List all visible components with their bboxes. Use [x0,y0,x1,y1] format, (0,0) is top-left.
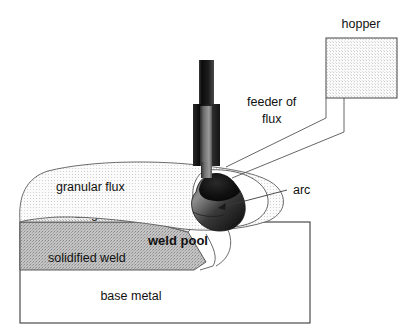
submerged-arc-welding-diagram: base metal solidified weld slag granular… [0,0,413,336]
diagram-canvas: base metal solidified weld slag granular… [0,0,413,336]
electrode-upper [199,60,214,110]
electrode-group [193,60,220,178]
feeder-tube-edge-lower [232,98,344,178]
hopper-label: hopper [342,17,381,31]
arc-label: arc [293,183,310,197]
electrode-core [200,106,212,166]
solidified-weld-label: solidified weld [48,251,126,265]
electrode-tip [201,162,212,178]
weld-pool-label: weld pool [147,233,208,248]
hopper-box [326,38,397,98]
feeder-of-flux-label-line2: flux [262,112,282,126]
base-metal-label: base metal [100,289,161,303]
feeder-of-flux-group: feeder of flux [226,95,344,178]
granular-flux-label: granular flux [56,180,126,194]
feeder-of-flux-label-line1: feeder of [247,95,297,109]
hopper-group: hopper [326,17,397,98]
